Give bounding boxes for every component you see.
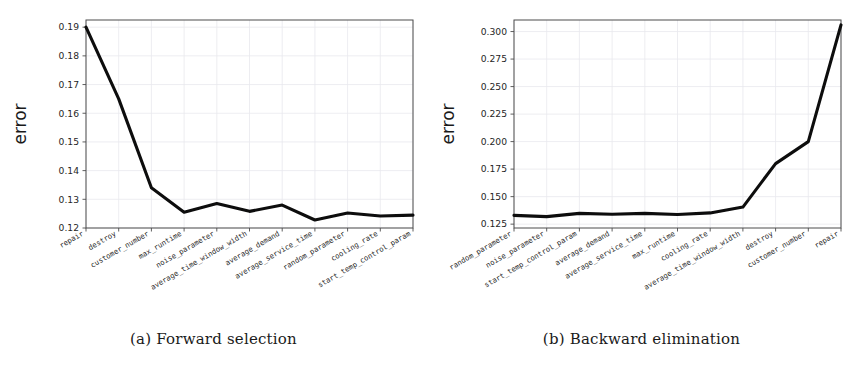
y-tick-label: 0.17 bbox=[59, 79, 80, 90]
y-tick-label: 0.16 bbox=[59, 108, 80, 119]
y-tick-label: 0.200 bbox=[481, 136, 507, 147]
y-tick-label: 0.250 bbox=[481, 81, 507, 92]
y-tick-label: 0.18 bbox=[59, 50, 80, 61]
panel-forward-selection: 0.120.130.140.150.160.170.180.19repairde… bbox=[0, 0, 427, 387]
y-axis-label: error bbox=[438, 103, 458, 144]
y-tick-label: 0.150 bbox=[481, 191, 507, 202]
y-tick-label: 0.15 bbox=[59, 136, 80, 147]
x-tick-label: customer_number bbox=[746, 229, 808, 270]
panel-backward-elimination: 0.1250.1500.1750.2000.2250.2500.2750.300… bbox=[428, 0, 855, 387]
caption-panel-a: (a) Forward selection bbox=[0, 330, 427, 348]
x-tick-label: repair bbox=[813, 229, 841, 250]
chart-forward-selection: 0.120.130.140.150.160.170.180.19repairde… bbox=[0, 0, 427, 330]
y-tick-label: 0.125 bbox=[481, 218, 507, 229]
y-axis-label: error bbox=[10, 103, 30, 144]
y-tick-label: 0.275 bbox=[481, 53, 507, 64]
figure-two-panel-line-charts: 0.120.130.140.150.160.170.180.19repairde… bbox=[0, 0, 855, 387]
y-tick-label: 0.14 bbox=[59, 165, 80, 176]
y-tick-label: 0.19 bbox=[59, 21, 80, 32]
y-tick-label: 0.13 bbox=[59, 194, 80, 205]
caption-panel-b: (b) Backward elimination bbox=[428, 330, 855, 348]
y-tick-label: 0.175 bbox=[481, 163, 507, 174]
y-tick-label: 0.225 bbox=[481, 108, 507, 119]
y-tick-label: 0.300 bbox=[481, 26, 507, 37]
chart-backward-elimination: 0.1250.1500.1750.2000.2250.2500.2750.300… bbox=[428, 0, 855, 330]
